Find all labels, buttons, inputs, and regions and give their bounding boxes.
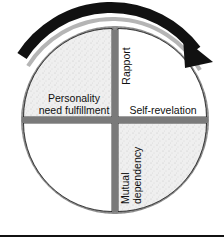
label-personality-need-fulfillment: Personality need fulfillment [36, 92, 112, 116]
quadrant-bottom-left [24, 123, 113, 212]
wheel-theory-diagram [0, 0, 224, 247]
label-need-fulfillment: need fulfillment [36, 104, 112, 116]
bottom-rule [0, 235, 224, 237]
label-personality: Personality [36, 92, 112, 104]
arrow-head-icon [183, 38, 213, 68]
divider-horizontal [22, 117, 208, 123]
label-rapport: Rapport [120, 46, 132, 86]
label-mutual-dependency: Mutual dependency [119, 144, 143, 204]
label-self-revelation: Self-revelation [126, 104, 200, 116]
label-mutual: Mutual [119, 144, 131, 204]
label-dependency: dependency [131, 144, 143, 204]
